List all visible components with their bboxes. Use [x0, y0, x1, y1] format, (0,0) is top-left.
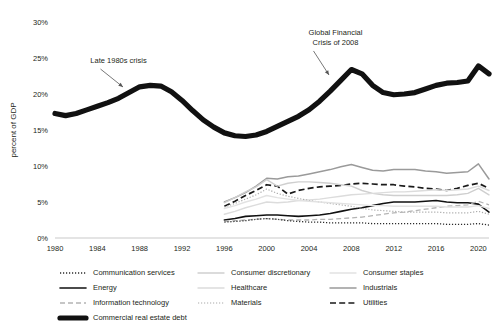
x-tick-label: 2004 [301, 244, 318, 253]
legend-label[interactable]: Commercial real estate debt [93, 313, 188, 322]
x-tick-label: 2000 [258, 244, 275, 253]
legend-label[interactable]: Healthcare [231, 283, 267, 292]
y-axis-tick-labels: 0%5%10%15%20%25%30% [33, 18, 48, 243]
x-tick-label: 2016 [428, 244, 445, 253]
y-tick-label: 25% [33, 54, 48, 63]
y-tick-label: 15% [33, 126, 48, 135]
x-axis-tick-labels: 1980198419881992199620002004200820122016… [47, 244, 487, 253]
x-tick-label: 1992 [174, 244, 191, 253]
chart-canvas: 0%5%10%15%20%25%30% 19801984198819921996… [0, 0, 497, 332]
legend-label[interactable]: Consumer staples [363, 268, 424, 277]
legend-label[interactable]: Consumer discretionary [231, 268, 310, 277]
annotation-text: Global Financial [309, 28, 363, 37]
series-lines [55, 66, 489, 225]
x-tick-label: 2020 [470, 244, 487, 253]
legend-label[interactable]: Energy [93, 283, 117, 292]
legend-label[interactable]: Communication services [93, 268, 175, 277]
chart-annotations: Late 1980s crisisGlobal FinancialCrisis … [90, 28, 362, 87]
annotation-arrowhead [325, 70, 329, 75]
x-tick-label: 1988 [131, 244, 148, 253]
y-tick-label: 5% [37, 198, 48, 207]
annotation-text: Late 1980s crisis [90, 56, 147, 65]
legend-label[interactable]: Information technology [93, 298, 169, 307]
series-line [224, 219, 489, 225]
y-tick-label: 0% [37, 234, 48, 243]
legend-label[interactable]: Utilities [363, 298, 387, 307]
chart-legend: Communication servicesConsumer discretio… [60, 268, 424, 322]
annotation-text: Crisis of 2008 [313, 38, 359, 47]
x-tick-label: 1996 [216, 244, 233, 253]
chart-figure: 0%5%10%15%20%25%30% 19801984198819921996… [0, 0, 497, 332]
y-tick-label: 30% [33, 18, 48, 27]
y-axis-title: percent of GDP [9, 102, 18, 157]
x-tick-label: 1984 [89, 244, 106, 253]
x-tick-label: 1980 [47, 244, 64, 253]
x-tick-label: 2012 [385, 244, 402, 253]
y-tick-label: 20% [33, 90, 48, 99]
legend-label[interactable]: Materials [231, 298, 262, 307]
legend-label[interactable]: Industrials [363, 283, 397, 292]
y-tick-label: 10% [33, 162, 48, 171]
x-tick-label: 2008 [343, 244, 360, 253]
series-line [55, 66, 489, 137]
